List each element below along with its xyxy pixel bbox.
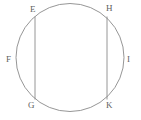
figure-canvas <box>0 0 141 120</box>
label-e: E <box>30 5 36 14</box>
circle-outline <box>16 4 124 112</box>
label-g: G <box>28 101 35 110</box>
label-h: H <box>106 4 113 13</box>
geometry-figure: E H F I G K <box>0 0 141 120</box>
label-k: K <box>106 101 113 110</box>
label-i: I <box>127 55 130 64</box>
label-f: F <box>6 55 11 64</box>
